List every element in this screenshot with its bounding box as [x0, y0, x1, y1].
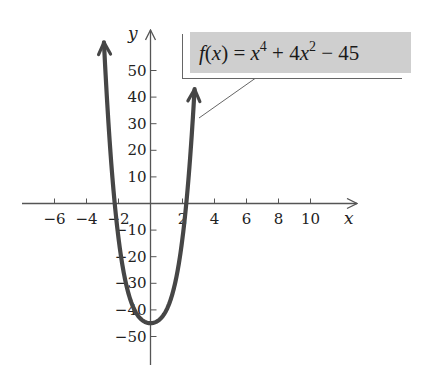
- function-label: f(x) = x4 + 4x2 − 45: [199, 39, 359, 65]
- y-tick-label: 50: [127, 62, 146, 80]
- y-tick-label: −50: [115, 328, 147, 346]
- x-tick-label: −6: [43, 210, 65, 228]
- y-axis-label: y: [127, 23, 138, 43]
- y-tick-label: 30: [127, 115, 146, 133]
- x-axis-label: x: [344, 208, 354, 228]
- curve-series: [99, 42, 200, 323]
- axes: x y −6−4−2246810 5040302010−10−20−30−40−…: [22, 23, 357, 365]
- formula-callout: f(x) = x4 + 4x2 − 45: [182, 32, 411, 118]
- x-tick-label: −4: [75, 210, 97, 228]
- x-tick-label: 10: [301, 210, 320, 228]
- x-tick-label: 6: [242, 210, 252, 228]
- y-tick-label: 20: [127, 141, 146, 159]
- x-tick-label: 8: [274, 210, 284, 228]
- y-tick-label: 10: [127, 168, 146, 186]
- y-tick-label: −30: [115, 274, 147, 292]
- function-graph: f(x) = x4 + 4x2 − 45 x y −6−4−2246810 50…: [0, 0, 428, 380]
- y-tick-label: 40: [127, 88, 146, 106]
- callout-pointer: [199, 79, 255, 119]
- x-tick-label: 4: [210, 210, 220, 228]
